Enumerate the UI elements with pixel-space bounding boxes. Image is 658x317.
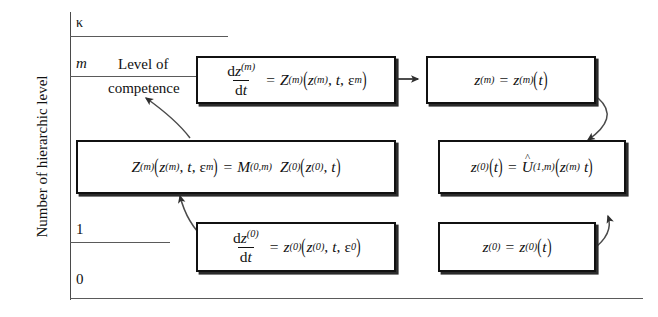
tick-line-kappa — [70, 36, 228, 37]
equation-box-bottom-left[interactable]: dz(0) dt = z(0) ( z(0), t, ε0 ) — [196, 222, 396, 272]
equation-box-middle-left[interactable]: Z(m) ( z(m), t, εm ) = M(0,m) Z(0) ( z(0… — [76, 140, 396, 194]
equation-middle-right: z(0)(t) = ^ U (1,m) ( z(m) t ) — [471, 156, 594, 178]
open-paren: ( — [303, 69, 307, 91]
fraction-dz0-dt: dz(0) dt — [231, 229, 261, 265]
figure-canvas: Number of hierarchic level κ m 1 0 Level… — [0, 0, 658, 317]
equation-middle-left: Z(m) ( z(m), t, εm ) = M(0,m) Z(0) ( z(0… — [131, 156, 340, 178]
equation-box-bottom-right[interactable]: z(0) = z(0) (t) — [438, 222, 596, 272]
close-paren: ) — [362, 69, 366, 91]
equation-box-top-right[interactable]: z(m) = z(m) (t) — [426, 56, 596, 104]
fraction-numerator: dz(m) — [225, 62, 257, 80]
equation-box-top-left[interactable]: dz(m) dt = Z(m) ( z(m), t, εm ) — [196, 56, 396, 104]
equals-sign: = — [266, 72, 275, 88]
competence-label-line1: Level of — [118, 56, 168, 73]
tick-label-kappa: κ — [76, 16, 83, 30]
equals-sign: = — [270, 239, 279, 255]
tick-label-one: 1 — [76, 222, 84, 237]
matrix-M: M — [237, 159, 250, 175]
equation-bottom-right: z(0) = z(0) (t) — [483, 236, 552, 258]
tick-line-m — [70, 76, 196, 77]
fraction-denominator: dt — [238, 247, 254, 265]
equals-sign: = — [508, 159, 517, 175]
equals-sign: = — [506, 239, 515, 255]
equals-sign: = — [500, 72, 509, 88]
function-Z: Z — [280, 72, 289, 88]
fraction-dz-dt: dz(m) dt — [225, 62, 257, 98]
competence-label-line2: competence — [108, 80, 180, 97]
fraction-denominator: dt — [233, 80, 249, 98]
operator-U-hat: ^ U — [522, 159, 533, 175]
equation-bottom-left: dz(0) dt = z(0) ( z(0), t, ε0 ) — [231, 229, 361, 265]
equation-top-right: z(m) = z(m) (t) — [474, 69, 547, 91]
tick-line-one — [70, 242, 170, 243]
y-axis-line — [70, 12, 71, 300]
tick-label-zero: 0 — [76, 272, 84, 287]
fraction-numerator: dz(0) — [231, 229, 261, 247]
equation-box-middle-right[interactable]: z(0)(t) = ^ U (1,m) ( z(m) t ) — [438, 140, 626, 194]
y-axis-label: Number of hierarchic level — [34, 27, 51, 287]
equation-top-left: dz(m) dt = Z(m) ( z(m), t, εm ) — [225, 62, 367, 98]
x-axis-baseline — [70, 298, 643, 299]
tick-label-m: m — [76, 56, 87, 71]
equals-sign: = — [223, 159, 232, 175]
